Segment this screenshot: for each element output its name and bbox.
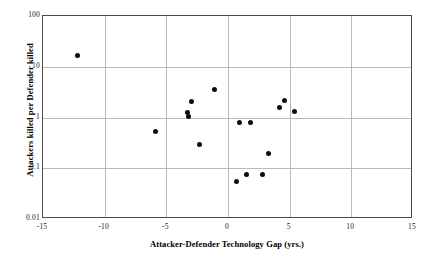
data-point: [153, 129, 158, 134]
x-tick-label: 15: [392, 222, 426, 231]
data-point: [237, 120, 242, 125]
gridline-vertical: [351, 16, 352, 217]
data-point: [248, 120, 253, 125]
data-point: [189, 99, 194, 104]
x-tick-label: -15: [22, 222, 62, 231]
data-point: [266, 151, 271, 156]
data-point: [244, 172, 249, 177]
gridline-horizontal: [43, 168, 411, 169]
data-point: [292, 109, 297, 114]
x-tick-label: -5: [145, 222, 185, 231]
gridline-horizontal: [43, 67, 411, 68]
gridline-vertical: [166, 16, 167, 217]
y-tick-label: 0.01: [2, 214, 40, 222]
data-point: [186, 114, 191, 119]
gridline-horizontal: [43, 118, 411, 119]
x-axis-tick-labels: -15-10-5051015: [0, 222, 426, 236]
scatter-chart-figure: 1001010.10.01 -15-10-5051015 Attacker-De…: [0, 0, 426, 276]
x-axis-title: Attacker-Defender Technology Gap (yrs.): [42, 239, 412, 249]
x-tick-label: 0: [207, 222, 247, 231]
x-tick-label: 5: [269, 222, 309, 231]
gridline-vertical: [290, 16, 291, 217]
data-point: [75, 53, 80, 58]
y-axis-title: Attackers killed per Defender killed: [25, 10, 35, 210]
data-point: [197, 142, 202, 147]
gridline-vertical: [105, 16, 106, 217]
gridline-vertical: [228, 16, 229, 217]
plot-area: [42, 15, 412, 218]
data-point: [234, 179, 239, 184]
data-point: [277, 105, 282, 110]
x-tick-label: 10: [330, 222, 370, 231]
data-point: [282, 98, 287, 103]
x-tick-label: -10: [84, 222, 124, 231]
data-point: [260, 172, 265, 177]
data-point: [212, 87, 217, 92]
